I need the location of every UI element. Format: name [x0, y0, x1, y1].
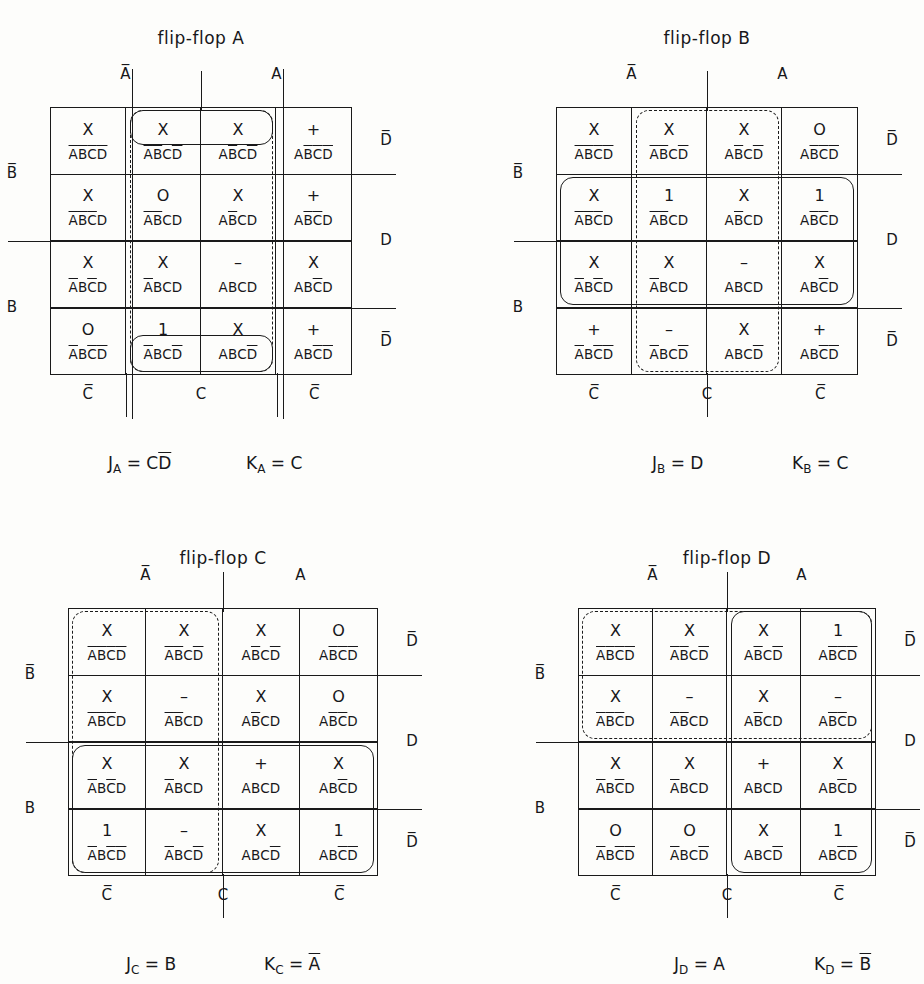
- cell-minterm: ABCD: [242, 782, 281, 796]
- kmap-cell[interactable]: XABCD: [69, 609, 146, 676]
- kmap-cell[interactable]: XABCD: [557, 108, 632, 175]
- kmap-cell[interactable]: XABCD: [126, 241, 201, 308]
- equation-rhs: A: [309, 954, 321, 974]
- cell-minterm: ABCD: [165, 782, 204, 796]
- kmap-row: XABCD–ABCDXABCDOABCD: [69, 676, 377, 743]
- kmap-cell[interactable]: 1ABCD: [782, 175, 857, 242]
- kmap-cell[interactable]: +ABCD: [276, 175, 351, 242]
- axis-label-d: D: [400, 732, 424, 750]
- equation-equals: =: [284, 954, 309, 974]
- kmap-cell[interactable]: –ABCD: [632, 308, 707, 375]
- kmap-cell[interactable]: XABCD: [69, 676, 146, 743]
- kmap-cell[interactable]: XABCD: [579, 676, 653, 743]
- kmap-cell[interactable]: XABCD: [201, 108, 276, 175]
- kmap-cell[interactable]: +ABCD: [782, 308, 857, 375]
- cell-value: X: [739, 121, 750, 139]
- kmap-cell[interactable]: OABCD: [579, 809, 653, 876]
- cell-minterm: ABCD: [800, 214, 839, 228]
- kmap-cell[interactable]: XABCD: [223, 676, 300, 743]
- kmap-cell[interactable]: XABCD: [782, 241, 857, 308]
- axis-label-b: B: [0, 298, 26, 316]
- cell-minterm: ABCD: [219, 348, 258, 362]
- axis-divider-horizontal: [68, 675, 422, 676]
- kmap-cell[interactable]: +ABCD: [276, 308, 351, 375]
- kmap-cell[interactable]: XABCD: [707, 175, 782, 242]
- kmap-cell[interactable]: XABCD: [579, 609, 653, 676]
- kmap-cell[interactable]: XABCD: [51, 108, 126, 175]
- kmap-cell[interactable]: XABCD: [300, 742, 377, 809]
- kmap-cell[interactable]: XABCD: [201, 175, 276, 242]
- cell-minterm: ABCD: [575, 281, 614, 295]
- kmap-cell[interactable]: 1ABCD: [801, 609, 875, 676]
- cell-value: –: [234, 254, 242, 272]
- a-boundary-line: [132, 69, 133, 419]
- kmap-cell[interactable]: OABCD: [300, 676, 377, 743]
- kmap-cell[interactable]: XABCD: [632, 108, 707, 175]
- kmap-cell[interactable]: XABCD: [727, 676, 801, 743]
- kmap-cell[interactable]: XABCD: [801, 742, 875, 809]
- kmap-cell[interactable]: XABCD: [707, 308, 782, 375]
- kmap-cell[interactable]: XABCD: [579, 742, 653, 809]
- equation-function: K: [264, 954, 275, 974]
- kmap-cell[interactable]: +ABCD: [557, 308, 632, 375]
- cell-minterm: ABCD: [69, 281, 108, 295]
- kmap-cell[interactable]: +ABCD: [727, 742, 801, 809]
- kmap-cell[interactable]: XABCD: [276, 241, 351, 308]
- kmap-cell[interactable]: –ABCD: [707, 241, 782, 308]
- kmap-cell[interactable]: XABCD: [557, 175, 632, 242]
- kmap-row: XABCD–ABCDXABCD–ABCD: [579, 676, 875, 743]
- kmap-title: flip-flop A: [0, 28, 442, 48]
- axis-label-a: A̅: [618, 65, 646, 83]
- axis-label-b: B: [504, 298, 532, 316]
- kmap-cell[interactable]: –ABCD: [146, 809, 223, 876]
- cell-minterm: ABCD: [88, 715, 127, 729]
- kmap-cell[interactable]: 1ABCD: [801, 809, 875, 876]
- kmap-cell[interactable]: –ABCD: [146, 676, 223, 743]
- equation-j-flip-flop-a: JA = CD: [108, 453, 171, 476]
- kmap-cell[interactable]: OABCD: [300, 609, 377, 676]
- kmap-row: XABCDXABCDXABCDOABCD: [557, 108, 857, 175]
- kmap-cell[interactable]: 1ABCD: [632, 175, 707, 242]
- kmap-cell[interactable]: OABCD: [126, 175, 201, 242]
- kmap-cell[interactable]: XABCD: [51, 241, 126, 308]
- kmap-cell[interactable]: XABCD: [727, 809, 801, 876]
- kmap-cell[interactable]: OABCD: [782, 108, 857, 175]
- kmap-cell[interactable]: XABCD: [201, 308, 276, 375]
- kmap-cell[interactable]: XABCD: [146, 609, 223, 676]
- cell-value: X: [179, 622, 190, 640]
- kmap-cell[interactable]: XABCD: [653, 742, 727, 809]
- kmap-cell[interactable]: XABCD: [707, 108, 782, 175]
- cell-minterm: ABCD: [219, 148, 258, 162]
- cell-minterm: ABCD: [596, 849, 635, 863]
- kmap-cell[interactable]: OABCD: [653, 809, 727, 876]
- kmap-cell[interactable]: –ABCD: [653, 676, 727, 743]
- kmap-cell[interactable]: 1ABCD: [300, 809, 377, 876]
- kmap-cell[interactable]: –ABCD: [201, 241, 276, 308]
- axis-label-d: D̅: [374, 131, 398, 149]
- cell-value: X: [233, 121, 244, 139]
- kmap-cell[interactable]: XABCD: [557, 241, 632, 308]
- axis-label-c: C̅: [93, 886, 121, 904]
- kmap-cell[interactable]: +ABCD: [276, 108, 351, 175]
- kmap-cell[interactable]: OABCD: [51, 308, 126, 375]
- kmap-cell[interactable]: XABCD: [727, 609, 801, 676]
- kmap-cell[interactable]: XABCD: [653, 609, 727, 676]
- cell-value: –: [180, 822, 188, 840]
- kmap-cell[interactable]: –ABCD: [801, 676, 875, 743]
- axis-divider-vertical: [707, 373, 708, 417]
- kmap-cell[interactable]: XABCD: [223, 609, 300, 676]
- kmap-cell[interactable]: 1ABCD: [126, 308, 201, 375]
- cell-minterm: ABCD: [242, 649, 281, 663]
- kmap-cell[interactable]: XABCD: [126, 108, 201, 175]
- cell-value: X: [158, 121, 169, 139]
- cell-minterm: ABCD: [294, 148, 333, 162]
- cell-value: –: [740, 254, 748, 272]
- kmap-cell[interactable]: XABCD: [632, 241, 707, 308]
- kmap-cell[interactable]: XABCD: [51, 175, 126, 242]
- kmap-cell[interactable]: +ABCD: [223, 742, 300, 809]
- kmap-cell[interactable]: 1ABCD: [69, 809, 146, 876]
- kmap-cell[interactable]: XABCD: [223, 809, 300, 876]
- kmap-cell[interactable]: XABCD: [69, 742, 146, 809]
- cell-value: –: [665, 321, 673, 339]
- kmap-cell[interactable]: XABCD: [146, 742, 223, 809]
